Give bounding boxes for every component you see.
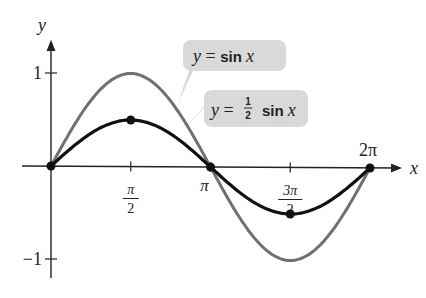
series-label-half-sin-fn: sin x [262, 100, 296, 120]
x-tick-label-denominator: 2 [127, 201, 134, 216]
series-label-sin: y = sin x [191, 46, 254, 66]
data-point [366, 164, 375, 173]
x-tick-label: 2π [359, 140, 377, 160]
y-tick-label: 1 [33, 63, 42, 83]
x-tick-label-numerator: π [127, 182, 135, 197]
fraction-numerator: 1 [245, 96, 251, 107]
x-axis-label: x [409, 158, 418, 178]
chart-canvas: x y π2π3π22π1−1 y = sin xy = 12sin x [0, 0, 426, 298]
series-label-half-sin: y = [209, 100, 234, 120]
y-axis-label: y [36, 15, 46, 35]
x-tick-label: π [200, 176, 209, 195]
data-point [47, 162, 56, 171]
data-point [286, 210, 295, 219]
data-point [126, 116, 135, 125]
x-tick-label-numerator: 3π [282, 183, 298, 198]
data-point [206, 163, 215, 172]
y-tick-label: −1 [23, 249, 42, 269]
fraction-denominator: 2 [245, 110, 251, 121]
